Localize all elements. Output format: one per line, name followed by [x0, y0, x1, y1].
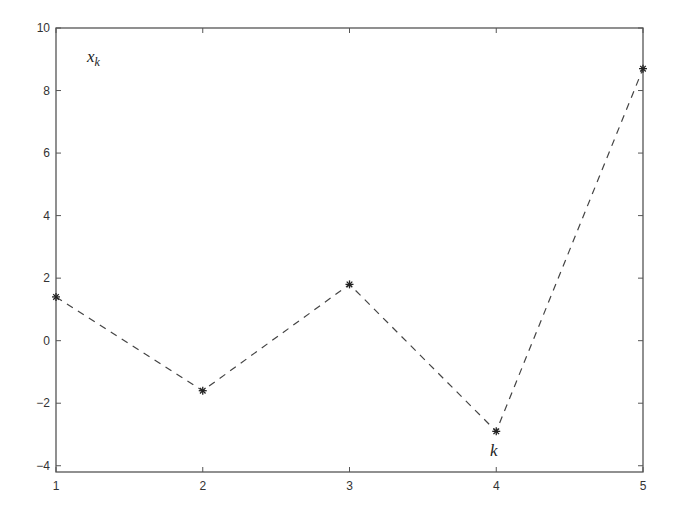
xk-annotation: xk: [86, 47, 101, 69]
y-tick-label: 10: [37, 21, 51, 35]
y-tick-label: 2: [43, 271, 50, 285]
y-tick-label: 4: [43, 209, 50, 223]
y-tick-label: −2: [36, 396, 50, 410]
asterisk-marker: [492, 427, 500, 435]
y-tick-label: −4: [36, 459, 50, 473]
y-tick-label: 6: [43, 146, 50, 160]
asterisk-marker: [639, 65, 647, 73]
x-tick-label: 1: [53, 479, 60, 493]
y-tick-label: 8: [43, 84, 50, 98]
line-chart: −4−20246810 12345 xk k: [0, 0, 678, 528]
y-tick-label: 0: [43, 334, 50, 348]
asterisk-marker: [346, 280, 354, 288]
asterisk-marker: [199, 387, 207, 395]
y-axis-ticks: −4−20246810: [36, 21, 643, 473]
x-tick-label: 3: [346, 479, 353, 493]
asterisk-marker: [52, 293, 60, 301]
axes-frame: [56, 28, 643, 472]
x-tick-label: 4: [493, 479, 500, 493]
x-axis-ticks: 12345: [53, 28, 647, 493]
x-tick-label: 2: [199, 479, 206, 493]
series-line: [56, 69, 643, 432]
x-tick-label: 5: [640, 479, 647, 493]
k-annotation: k: [490, 441, 498, 460]
series-markers: [52, 65, 647, 436]
